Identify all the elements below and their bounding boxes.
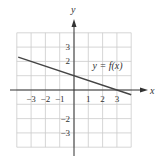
x-tick-label: −1 <box>55 94 65 104</box>
y-axis-arrow-icon <box>72 19 77 27</box>
x-tick-label: −2 <box>41 94 51 104</box>
y-tick-label: 3 <box>66 42 71 52</box>
x-tick-label: 3 <box>115 94 120 104</box>
function-graph: x y −3−2−112332−2−3 y = f(x) <box>0 0 161 157</box>
x-tick-label: 2 <box>100 94 105 104</box>
y-tick-label: 2 <box>66 56 71 66</box>
curve-label: y = f(x) <box>92 60 124 72</box>
y-tick-label: −3 <box>60 128 70 138</box>
x-axis-label: x <box>149 85 155 96</box>
y-axis-label: y <box>70 4 76 15</box>
x-tick-label: 1 <box>86 94 91 104</box>
x-axis-arrow-icon <box>140 88 148 93</box>
x-tick-label: −3 <box>26 94 36 104</box>
y-tick-label: −2 <box>60 114 70 124</box>
